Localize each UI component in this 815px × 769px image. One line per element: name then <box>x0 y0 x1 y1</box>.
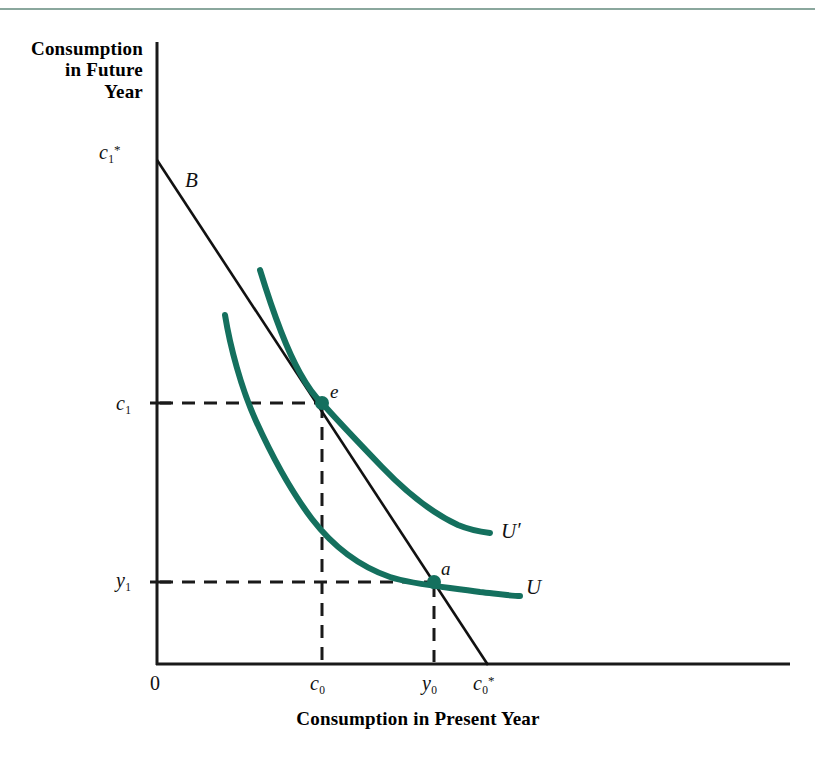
x-tick-label-c0: c0 <box>310 672 325 697</box>
x-tick-label-c0-star: c0* <box>473 672 494 697</box>
budget-line-label: B <box>185 169 198 193</box>
y-axis-title-line-1: Consumption <box>0 38 143 59</box>
y1-sub: 1 <box>125 581 131 593</box>
y-tick-label-c1: c1 <box>116 392 131 417</box>
c0-star-base: c <box>473 672 482 694</box>
c1-sub: 1 <box>125 404 131 416</box>
y-tick-label-y1: y1 <box>116 569 131 594</box>
x-axis-title: Consumption in Present Year <box>228 708 608 729</box>
curve-u-prime-label: U′ <box>501 519 521 544</box>
y-axis-title-line-2: in Future <box>0 59 143 80</box>
u-prime-mark: ′ <box>516 519 520 541</box>
c0-star-sup: * <box>488 673 495 688</box>
c1-base: c <box>116 392 125 414</box>
axes-group <box>156 42 790 665</box>
c0-base: c <box>310 672 319 694</box>
y-tick-label-c1-star: c1* <box>99 141 120 166</box>
c1-star-sup: * <box>114 142 121 157</box>
data-point-e[interactable] <box>315 396 329 410</box>
point-e-label: e <box>330 381 338 402</box>
y-axis-title: Consumption in Future Year <box>0 38 143 102</box>
figure-container: Consumption in Future Year Consumption i… <box>0 0 815 769</box>
c1-star-base: c <box>99 141 108 163</box>
data-point-a[interactable] <box>427 575 441 589</box>
curve-u-label: U <box>526 576 541 600</box>
point-a-label: a <box>441 558 451 579</box>
origin-label: 0 <box>150 672 160 694</box>
u-prime-base: U <box>501 519 516 543</box>
c0-sub: 0 <box>319 684 325 696</box>
y0-base: y <box>422 672 431 694</box>
x-tick-label-y0: y0 <box>422 672 437 697</box>
diagram-canvas <box>0 0 815 769</box>
y-axis-title-line-3: Year <box>0 81 143 102</box>
tick-marks <box>150 403 171 582</box>
dashed-guides <box>160 403 436 662</box>
y1-base: y <box>116 569 125 591</box>
y0-sub: 0 <box>431 684 437 696</box>
